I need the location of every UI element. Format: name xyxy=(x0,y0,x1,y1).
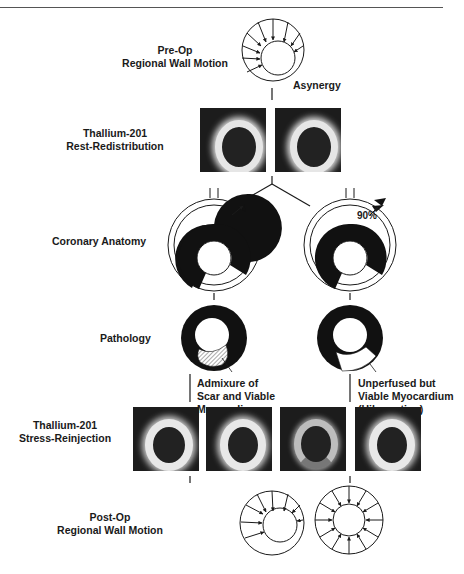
pathology-right-diagram xyxy=(317,305,383,372)
pathology-left-diagram xyxy=(181,305,247,372)
coronary-right-diagram xyxy=(304,188,396,291)
diagram-graphics xyxy=(0,0,464,574)
preop-wall-motion-diagram xyxy=(242,19,304,81)
postop-right-wall-motion-diagram xyxy=(315,486,383,554)
coronary-left-diagram xyxy=(168,188,282,292)
postop-left-wall-motion-diagram xyxy=(240,491,304,555)
